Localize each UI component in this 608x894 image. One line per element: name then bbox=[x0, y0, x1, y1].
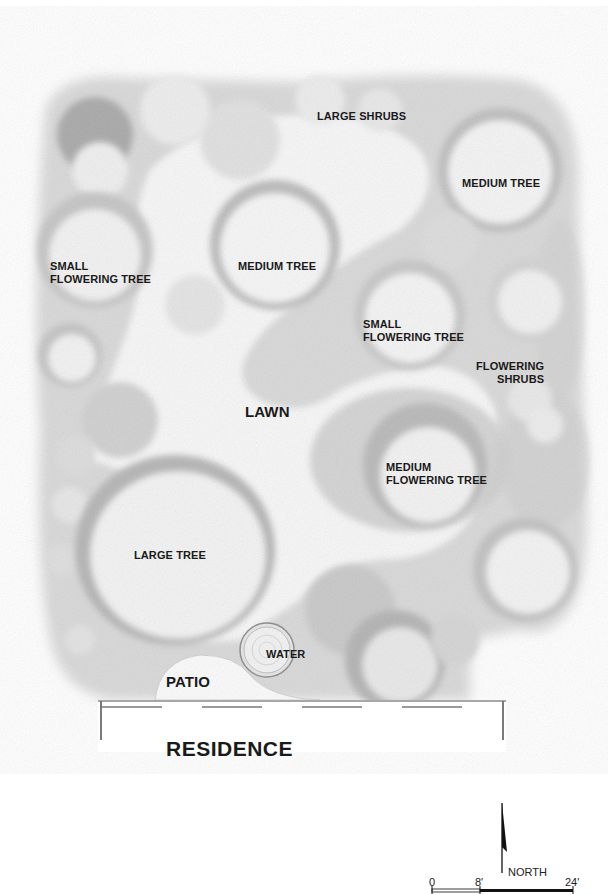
label-small-flowering-tree-e: SMALL FLOWERING TREE bbox=[363, 318, 464, 344]
label-medium-tree-ne: MEDIUM TREE bbox=[462, 177, 540, 190]
scale-tick-24: 24' bbox=[565, 876, 579, 888]
label-patio: PATIO bbox=[166, 673, 210, 690]
label-residence: RESIDENCE bbox=[166, 737, 293, 761]
label-small-flowering-tree-w: SMALL FLOWERING TREE bbox=[50, 260, 151, 286]
label-lawn: LAWN bbox=[245, 403, 290, 420]
north-arrow-icon bbox=[502, 803, 507, 873]
landscape-plan-drawing bbox=[0, 0, 608, 894]
label-medium-tree-center: MEDIUM TREE bbox=[238, 260, 316, 273]
label-large-shrubs: LARGE SHRUBS bbox=[317, 110, 406, 123]
scale-bar bbox=[432, 886, 573, 894]
label-flowering-shrubs: FLOWERING SHRUBS bbox=[476, 360, 544, 386]
label-water: WATER bbox=[266, 648, 305, 661]
scale-tick-0: 0 bbox=[429, 876, 435, 888]
scale-tick-8: 8' bbox=[475, 876, 483, 888]
residence-outline bbox=[98, 700, 506, 752]
label-medium-flowering-tree: MEDIUM FLOWERING TREE bbox=[386, 461, 487, 487]
label-large-tree: LARGE TREE bbox=[134, 549, 206, 562]
north-label: NORTH bbox=[508, 866, 547, 878]
